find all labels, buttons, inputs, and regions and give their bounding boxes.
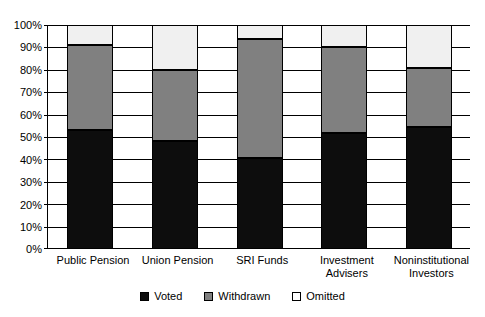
bar-segment-omitted[interactable]	[152, 25, 198, 70]
y-tick-label-40: 40%	[2, 155, 42, 166]
y-tick-mark-20	[44, 204, 48, 205]
x-label-line: Union Pension	[132, 254, 224, 267]
bar-public-pension[interactable]	[67, 25, 113, 249]
legend-label-withdrawn: Withdrawn	[218, 291, 270, 302]
y-tick-mark-100	[44, 25, 48, 26]
bar-segment-withdrawn[interactable]	[67, 45, 113, 130]
bar-segment-voted[interactable]	[237, 158, 283, 249]
x-label-sri-funds: SRI Funds	[216, 254, 308, 267]
y-tick-label-80: 80%	[2, 65, 42, 76]
x-label-line: Advisers	[301, 267, 393, 280]
y-tick-label-60: 60%	[2, 110, 42, 121]
y-tick-mark-0	[44, 248, 48, 249]
bar-union-pension[interactable]	[152, 25, 198, 249]
bar-segment-omitted[interactable]	[321, 25, 367, 47]
y-tick-mark-30	[44, 182, 48, 183]
x-label-line: Investors	[385, 267, 477, 280]
legend-item-withdrawn[interactable]: Withdrawn	[204, 291, 270, 302]
x-axis-labels: Public Pension Union Pension SRI Funds I…	[47, 254, 470, 288]
plot-area	[47, 25, 470, 249]
y-tick-mark-80	[44, 70, 48, 71]
bar-segment-voted[interactable]	[321, 133, 367, 249]
x-label-union-pension: Union Pension	[132, 254, 224, 267]
bar-segment-withdrawn[interactable]	[406, 68, 452, 127]
bar-segment-omitted[interactable]	[67, 25, 113, 45]
y-tick-mark-60	[44, 115, 48, 116]
y-tick-label-90: 90%	[2, 42, 42, 53]
y-tick-mark-10	[44, 227, 48, 228]
bar-noninstitutional[interactable]	[406, 25, 452, 249]
bar-segment-voted[interactable]	[406, 127, 452, 249]
bar-segment-withdrawn[interactable]	[152, 70, 198, 142]
y-tick-label-70: 70%	[2, 87, 42, 98]
y-tick-mark-70	[44, 92, 48, 93]
y-tick-mark-40	[44, 159, 48, 160]
y-tick-label-50: 50%	[2, 132, 42, 143]
y-tick-label-30: 30%	[2, 177, 42, 188]
bar-sri-funds[interactable]	[237, 25, 283, 249]
legend-swatch-voted-icon	[140, 292, 149, 301]
bar-segment-withdrawn[interactable]	[321, 47, 367, 132]
legend: Voted Withdrawn Omitted	[0, 291, 485, 302]
y-tick-label-20: 20%	[2, 200, 42, 211]
bar-investment-advisers[interactable]	[321, 25, 367, 249]
x-label-line: SRI Funds	[216, 254, 308, 267]
x-label-investment-advisers: Investment Advisers	[301, 254, 393, 280]
legend-swatch-withdrawn-icon	[204, 292, 213, 301]
bar-segment-voted[interactable]	[152, 141, 198, 249]
x-label-line: Investment	[301, 254, 393, 267]
x-label-noninstitutional-investors: Noninstitutional Investors	[385, 254, 477, 280]
y-tick-label-10: 10%	[2, 222, 42, 233]
x-label-public-pension: Public Pension	[47, 254, 139, 267]
bar-segment-omitted[interactable]	[237, 25, 283, 39]
stacked-bar-chart: 100% 90% 80% 70% 60% 50% 40% 30% 20% 10%…	[0, 0, 485, 317]
bar-segment-withdrawn[interactable]	[237, 39, 283, 158]
bar-segment-voted[interactable]	[67, 130, 113, 249]
y-tick-mark-50	[44, 137, 48, 138]
bar-segment-omitted[interactable]	[406, 25, 452, 68]
y-axis-labels: 100% 90% 80% 70% 60% 50% 40% 30% 20% 10%…	[0, 0, 42, 317]
legend-label-voted: Voted	[154, 291, 182, 302]
y-tick-mark-90	[44, 47, 48, 48]
legend-label-omitted: Omitted	[306, 291, 345, 302]
x-label-line: Public Pension	[47, 254, 139, 267]
y-tick-label-0: 0%	[2, 244, 42, 255]
x-label-line: Noninstitutional	[385, 254, 477, 267]
legend-swatch-omitted-icon	[292, 292, 301, 301]
legend-item-omitted[interactable]: Omitted	[292, 291, 345, 302]
y-tick-label-100: 100%	[2, 20, 42, 31]
legend-item-voted[interactable]: Voted	[140, 291, 182, 302]
